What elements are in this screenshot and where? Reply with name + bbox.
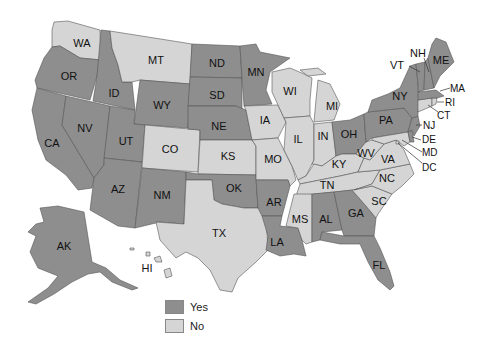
label-il: IL [293, 133, 302, 145]
label-la: LA [270, 236, 284, 248]
label-nm: NM [153, 189, 170, 201]
label-wy: WY [153, 99, 171, 111]
label-or: OR [61, 70, 78, 82]
label-sc: SC [371, 195, 386, 207]
label-ia: IA [260, 114, 271, 126]
label-tx: TX [212, 227, 227, 239]
label-ky: KY [332, 158, 347, 170]
label-vt: VT [390, 59, 404, 71]
legend-label-no: No [190, 320, 204, 332]
label-ar: AR [266, 196, 281, 208]
label-wi: WI [283, 85, 296, 97]
label-nc: NC [379, 172, 395, 184]
state-ri[interactable] [432, 98, 437, 106]
label-pa: PA [379, 114, 394, 126]
label-ma: MA [450, 83, 465, 94]
label-id: ID [109, 87, 120, 99]
legend-swatch-no [165, 319, 184, 333]
label-fl: FL [373, 259, 386, 271]
label-mn: MN [247, 66, 264, 78]
label-ny: NY [392, 90, 408, 102]
label-ut: UT [119, 135, 134, 147]
label-ri: RI [445, 97, 455, 108]
label-nd: ND [209, 57, 225, 69]
legend-item-yes: Yes [165, 298, 208, 316]
label-sd: SD [209, 89, 224, 101]
label-mt: MT [148, 54, 164, 66]
label-de: DE [422, 134, 436, 145]
label-nj: NJ [423, 120, 435, 131]
label-md: MD [422, 147, 438, 158]
legend: Yes No [165, 298, 208, 336]
legend-swatch-yes [165, 300, 184, 314]
label-ca: CA [44, 137, 60, 149]
ma-leader [440, 88, 450, 91]
label-ga: GA [348, 207, 365, 219]
legend-item-no: No [165, 317, 208, 335]
state-ct[interactable] [418, 98, 432, 112]
label-mi: MI [326, 100, 338, 112]
legend-label-yes: Yes [190, 301, 208, 313]
label-nv: NV [77, 122, 93, 134]
label-hi: HI [142, 262, 153, 274]
label-ms: MS [292, 213, 309, 225]
label-ok: OK [226, 182, 243, 194]
label-wa: WA [73, 37, 91, 49]
label-wv: WV [357, 147, 375, 159]
label-ne: NE [211, 120, 226, 132]
label-oh: OH [341, 128, 358, 140]
label-tn: TN [320, 179, 335, 191]
label-va: VA [381, 153, 396, 165]
label-dc: DC [422, 162, 436, 173]
label-ks: KS [221, 150, 236, 162]
us-map: WA OR CA ID NV MT WY UT AZ CO NM ND SD N… [0, 0, 482, 352]
label-nh: NH [410, 47, 426, 59]
label-al: AL [319, 213, 332, 225]
label-co: CO [162, 143, 179, 155]
label-ak: AK [57, 240, 72, 252]
label-me: ME [433, 54, 450, 66]
label-ct: CT [437, 110, 450, 121]
label-az: AZ [111, 183, 125, 195]
label-in: IN [318, 130, 329, 142]
label-mo: MO [264, 153, 282, 165]
